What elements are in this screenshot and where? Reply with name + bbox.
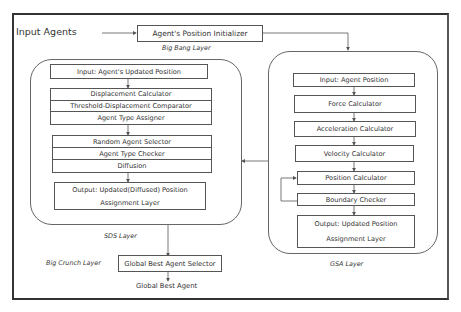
gsa-output-box: Output: Updated Position Assignment Laye…: [297, 215, 415, 248]
global-best-agent-label: Global Best Agent: [136, 282, 197, 290]
random-agent-selector: Random Agent Selector: [53, 136, 211, 148]
sds-output-box: Output: Updated(Diffused) Position Assig…: [54, 182, 206, 210]
global-best-agent-selector-box: Global Best Agent Selector: [118, 255, 222, 272]
diffusion: Diffusion: [53, 160, 211, 172]
gsa-assignment-layer: Assignment Layer: [298, 232, 414, 248]
boundary-checker-box: Boundary Checker: [297, 193, 415, 206]
big-bang-layer-caption: Big Bang Layer: [162, 44, 211, 52]
position-initializer-box: Agent's Position Initializer: [137, 25, 263, 42]
input-agents-label: Input Agents: [16, 26, 77, 37]
displacement-calculator: Displacement Calculator: [51, 89, 211, 101]
position-calculator-box: Position Calculator: [297, 171, 415, 185]
sds-group-diffusion: Random Agent Selector Agent Type Checker…: [52, 135, 212, 173]
agent-type-assigner: Agent Type Assigner: [51, 112, 211, 124]
gsa-input-box: Input: Agent Position: [293, 73, 415, 87]
force-calculator-box: Force Calculator: [294, 95, 416, 113]
sds-assignment-layer: Assignment Layer: [55, 196, 205, 209]
sds-layer-caption: SDS Layer: [104, 232, 137, 240]
sds-group-displacement: Displacement Calculator Threshold-Displa…: [50, 88, 212, 125]
gsa-output-label: Output: Updated Position: [298, 216, 414, 232]
agent-type-checker: Agent Type Checker: [53, 148, 211, 160]
velocity-calculator-box: Velocity Calculator: [295, 145, 414, 162]
gsa-layer-caption: GSA Layer: [330, 260, 363, 268]
big-crunch-layer-caption: Big Crunch Layer: [46, 259, 101, 267]
sds-input-box: Input: Agent's Updated Position: [50, 64, 208, 79]
acceleration-calculator-box: Acceleration Calculator: [294, 121, 416, 137]
threshold-displacement-comparator: Threshold-Displacement Comparator: [51, 101, 211, 113]
sds-output-label: Output: Updated(Diffused) Position: [55, 183, 205, 196]
